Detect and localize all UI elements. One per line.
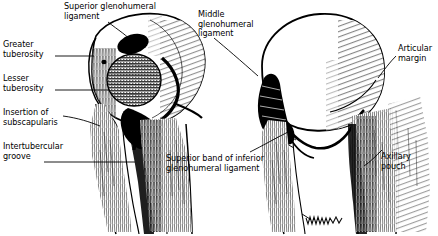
label-intertubercular-groove: Intertubercular groove [3,142,73,161]
anatomy-figure: Superior glenohumeral ligament Middle gl… [0,0,438,236]
label-greater-tuberosity: Greater tuberosity [3,40,55,59]
label-superior-band-of-inferior-glenohumeral-ligament: Superior band of inferior glenohumeral l… [166,154,286,173]
label-lesser-tuberosity: Lesser tuberosity [3,74,55,93]
label-middle-glenohumeral-ligament: Middle glenohumeral ligament [198,10,268,39]
label-axillary-pouch: Axillary pouch [381,152,425,171]
label-articular-margin: Articular margin [398,44,438,63]
ligament-footprint [107,54,161,106]
label-insertion-of-subscapularis: Insertion of subscapularis [3,108,65,127]
label-superior-glenohumeral-ligament: Superior glenohumeral ligament [64,2,184,21]
